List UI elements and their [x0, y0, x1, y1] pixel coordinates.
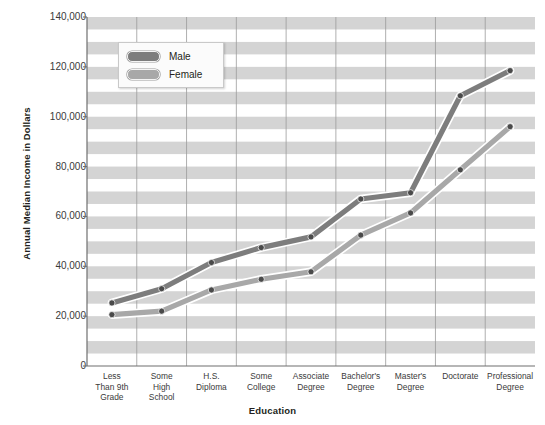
legend-swatch-male-icon: [127, 51, 160, 62]
data-point-marker: [358, 196, 364, 202]
grid-band: [87, 142, 535, 154]
income-by-education-line-chart: Annual Median Income in Dollars Educatio…: [0, 0, 545, 425]
data-point-marker: [507, 68, 513, 74]
data-point-marker: [208, 259, 214, 265]
data-point-marker: [507, 124, 513, 130]
legend-item-female: Female: [127, 66, 202, 82]
grid-band: [87, 117, 535, 129]
plot-area: [0, 0, 545, 425]
data-point-marker: [258, 244, 264, 250]
data-point-marker: [208, 287, 214, 293]
grid-band: [87, 316, 535, 328]
chart-legend: Male Female: [118, 42, 224, 88]
grid-band: [87, 216, 535, 228]
legend-swatch-female-icon: [127, 69, 160, 80]
data-point-marker: [308, 269, 314, 275]
grid-band: [87, 241, 535, 253]
data-point-marker: [308, 234, 314, 240]
grid-band: [87, 341, 535, 353]
data-point-marker: [358, 232, 364, 238]
data-point-marker: [457, 167, 463, 173]
grid-band: [87, 192, 535, 204]
data-point-marker: [407, 210, 413, 216]
legend-item-male: Male: [127, 48, 191, 64]
data-point-marker: [159, 308, 165, 314]
data-point-marker: [109, 300, 115, 306]
data-point-marker: [457, 93, 463, 99]
data-point-marker: [159, 286, 165, 292]
legend-label-female: Female: [169, 69, 202, 80]
grid-band: [87, 17, 535, 29]
data-point-marker: [109, 312, 115, 318]
legend-label-male: Male: [169, 51, 191, 62]
data-point-marker: [258, 276, 264, 282]
data-point-marker: [407, 190, 413, 196]
